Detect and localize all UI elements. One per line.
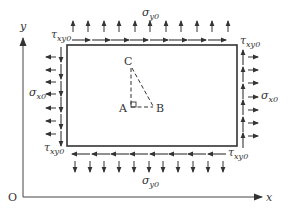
right-angle-marker — [131, 102, 136, 107]
side-cb — [132, 68, 153, 106]
plate-rectangle — [67, 45, 237, 146]
y-axis-label: y — [19, 20, 27, 33]
sigma-y0-bottom-label: σy0 — [142, 174, 159, 189]
point-a-label: A — [118, 102, 128, 115]
stress-diagram: y O x — [0, 0, 291, 212]
top-normal-stress-arrows — [73, 21, 228, 32]
point-b-label: B — [156, 102, 164, 115]
sigma-x0-left-label: σx0 — [29, 86, 46, 101]
left-normal-stress-arrows — [46, 57, 56, 134]
sigma-y0-top-label: σy0 — [142, 6, 159, 21]
triangle-abc — [131, 68, 153, 107]
tau-xy0-top-right-label: τxy0 — [240, 34, 260, 49]
sigma-x0-right-label: σx0 — [261, 89, 278, 104]
x-axis-label: x — [266, 191, 273, 204]
tau-xy0-top-left-label: τxy0 — [51, 28, 71, 43]
bottom-normal-stress-arrows — [75, 161, 223, 172]
right-normal-stress-arrows — [248, 57, 258, 136]
point-c-label: C — [124, 55, 132, 68]
origin-label: O — [8, 191, 17, 204]
tau-xy0-bottom-right-label: τxy0 — [228, 146, 248, 161]
